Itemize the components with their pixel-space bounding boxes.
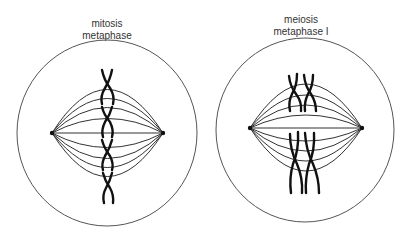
meiosis-lower-tetrad-right: [305, 133, 319, 193]
mitosis-cell-illustration: [0, 0, 206, 238]
meiosis-cell-illustration: [206, 0, 412, 238]
mitosis-chromosome-3: [102, 140, 113, 170]
mitosis-chromosome-4: [103, 173, 113, 203]
mitosis-spindle-fibers: [52, 90, 163, 177]
meiosis-chromosomes: [289, 74, 319, 193]
meiosis-panel: meiosis metaphase I: [206, 0, 412, 238]
meiosis-right-pole: [360, 126, 364, 130]
mitosis-right-pole: [161, 131, 165, 135]
mitosis-panel: mitosis metaphase: [0, 0, 206, 238]
meiosis-cell-membrane: [216, 38, 394, 222]
meiosis-left-pole: [248, 126, 252, 130]
mitosis-left-pole: [50, 131, 54, 135]
